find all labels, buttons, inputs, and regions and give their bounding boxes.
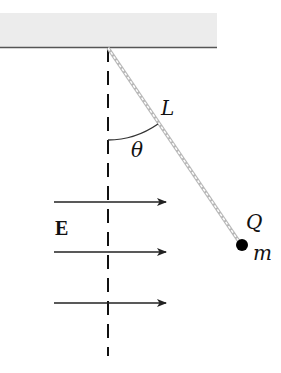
ceiling [0, 13, 217, 48]
pendulum-string [108, 48, 240, 243]
mass-label: m [253, 243, 272, 263]
pendulum-diagram: L θ E Q m [0, 0, 281, 373]
field-label: E [55, 218, 68, 238]
charge-label: Q [246, 212, 262, 232]
pendulum-bob [236, 239, 248, 251]
diagram-canvas [0, 0, 281, 373]
electric-field-arrows [54, 202, 166, 303]
length-label: L [161, 98, 174, 118]
angle-label: θ [131, 140, 143, 160]
